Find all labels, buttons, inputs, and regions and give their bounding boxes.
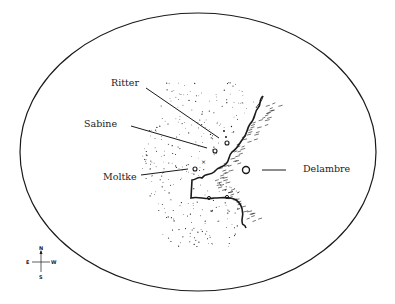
hatch-stroke (258, 218, 262, 219)
stipple-dot (229, 237, 230, 238)
hatch-stroke (242, 146, 245, 147)
stipple-dot (191, 222, 192, 223)
stipple-dot (193, 203, 194, 204)
stipple-dot (170, 185, 171, 186)
crater-delambre (243, 167, 250, 174)
stipple-dot (222, 106, 223, 107)
stipple-dot (232, 86, 233, 87)
stipple-dot (167, 89, 168, 90)
stipple-dot (237, 119, 238, 120)
leader-moltke (141, 169, 188, 175)
stipple-dot (205, 233, 206, 234)
compass-rose: N S E W (26, 245, 57, 280)
stipple-dot (164, 155, 165, 156)
stipple-dot (243, 95, 244, 96)
stipple-dot (165, 121, 166, 122)
stipple-dot (173, 220, 174, 221)
stipple-dot (160, 179, 161, 180)
stipple-dot (166, 217, 167, 218)
hatch-stroke (215, 180, 219, 181)
hatch-stroke (256, 132, 260, 133)
stipple-dot (231, 126, 232, 127)
compass-south: S (39, 274, 43, 280)
compass-north: N (39, 245, 43, 251)
stipple-dot (180, 205, 181, 206)
stipple-dot (253, 102, 254, 103)
stipple-dot (178, 146, 179, 147)
stipple-dot (194, 237, 195, 238)
stipple-dot (150, 195, 151, 196)
stipple-dot (163, 182, 164, 183)
stipple-dot (213, 200, 214, 201)
stipple-dot (211, 243, 212, 244)
label-delambre: Delambre (303, 163, 351, 174)
hatch-stroke (270, 108, 273, 109)
stipple-dot (178, 246, 179, 247)
stipple-dot (202, 231, 203, 232)
stipple-dot (142, 168, 143, 169)
stipple-dot (180, 179, 181, 180)
stipple-dot (146, 159, 147, 160)
stipple-dot (183, 105, 184, 106)
stipple-dot (226, 99, 227, 100)
stipple-dot (155, 138, 156, 139)
stipple-dot (145, 161, 146, 162)
stipple-dot (164, 208, 165, 209)
stipple-dot (181, 178, 182, 179)
stipple-dot (210, 134, 211, 135)
stipple-dot (162, 118, 163, 119)
stipple-dot (161, 156, 162, 157)
stipple-dot (168, 144, 169, 145)
stipple-dot (236, 115, 237, 116)
hatch-stroke (223, 180, 228, 181)
stipple-dot (169, 83, 170, 84)
stipple-dot (179, 94, 180, 95)
stipple-dot (218, 143, 219, 144)
stipple-dot (188, 164, 189, 165)
stipple-dot (216, 100, 217, 101)
stipple-dot (188, 132, 189, 133)
stipple-dot (195, 101, 196, 102)
stipple-dot (175, 97, 176, 98)
stipple-dot (193, 205, 194, 206)
stipple-dot (151, 130, 152, 131)
stipple-dot (178, 122, 179, 123)
hatch-stroke (239, 153, 243, 154)
stipple-dot (190, 236, 191, 237)
stipple-dot (237, 208, 238, 209)
stipple-dot (179, 148, 180, 149)
stipple-dot (146, 151, 147, 152)
stipple-dot (225, 202, 226, 203)
hatch-stroke (248, 132, 252, 133)
stipple-dot (202, 209, 203, 210)
stipple-dot (203, 169, 204, 170)
stipple-dot (176, 118, 177, 119)
stipple-dot (197, 202, 198, 203)
stipple-dot (219, 206, 220, 207)
stipple-dot (230, 82, 231, 83)
stipple-dot (216, 97, 217, 98)
stipple-dot (181, 94, 182, 95)
stipple-dot (238, 103, 239, 104)
hatch-stroke (241, 148, 246, 149)
stipple-dot (165, 212, 166, 213)
hatch-stroke (222, 170, 226, 171)
stipple-dot (176, 167, 177, 168)
compass-east: E (26, 259, 30, 265)
stipple-dot (210, 237, 211, 238)
stipple-dot (156, 127, 157, 128)
hatch-stroke (247, 218, 250, 219)
stipple-dot (193, 228, 194, 229)
stipple-dot (158, 210, 159, 211)
stipple-dot (219, 191, 220, 192)
crater-moltke (193, 167, 197, 171)
stipple-dot (234, 235, 235, 236)
label-moltke: Moltke (103, 171, 137, 182)
hatch-stroke (254, 134, 259, 135)
hatch-stroke (229, 170, 234, 171)
stipple-dot (234, 117, 235, 118)
stipple-dot (156, 131, 157, 132)
stipple-dot (182, 236, 183, 237)
stipple-dot (187, 215, 188, 216)
lunar-map: × Ritter Sabine Moltke Delambre N S E W (0, 0, 395, 304)
